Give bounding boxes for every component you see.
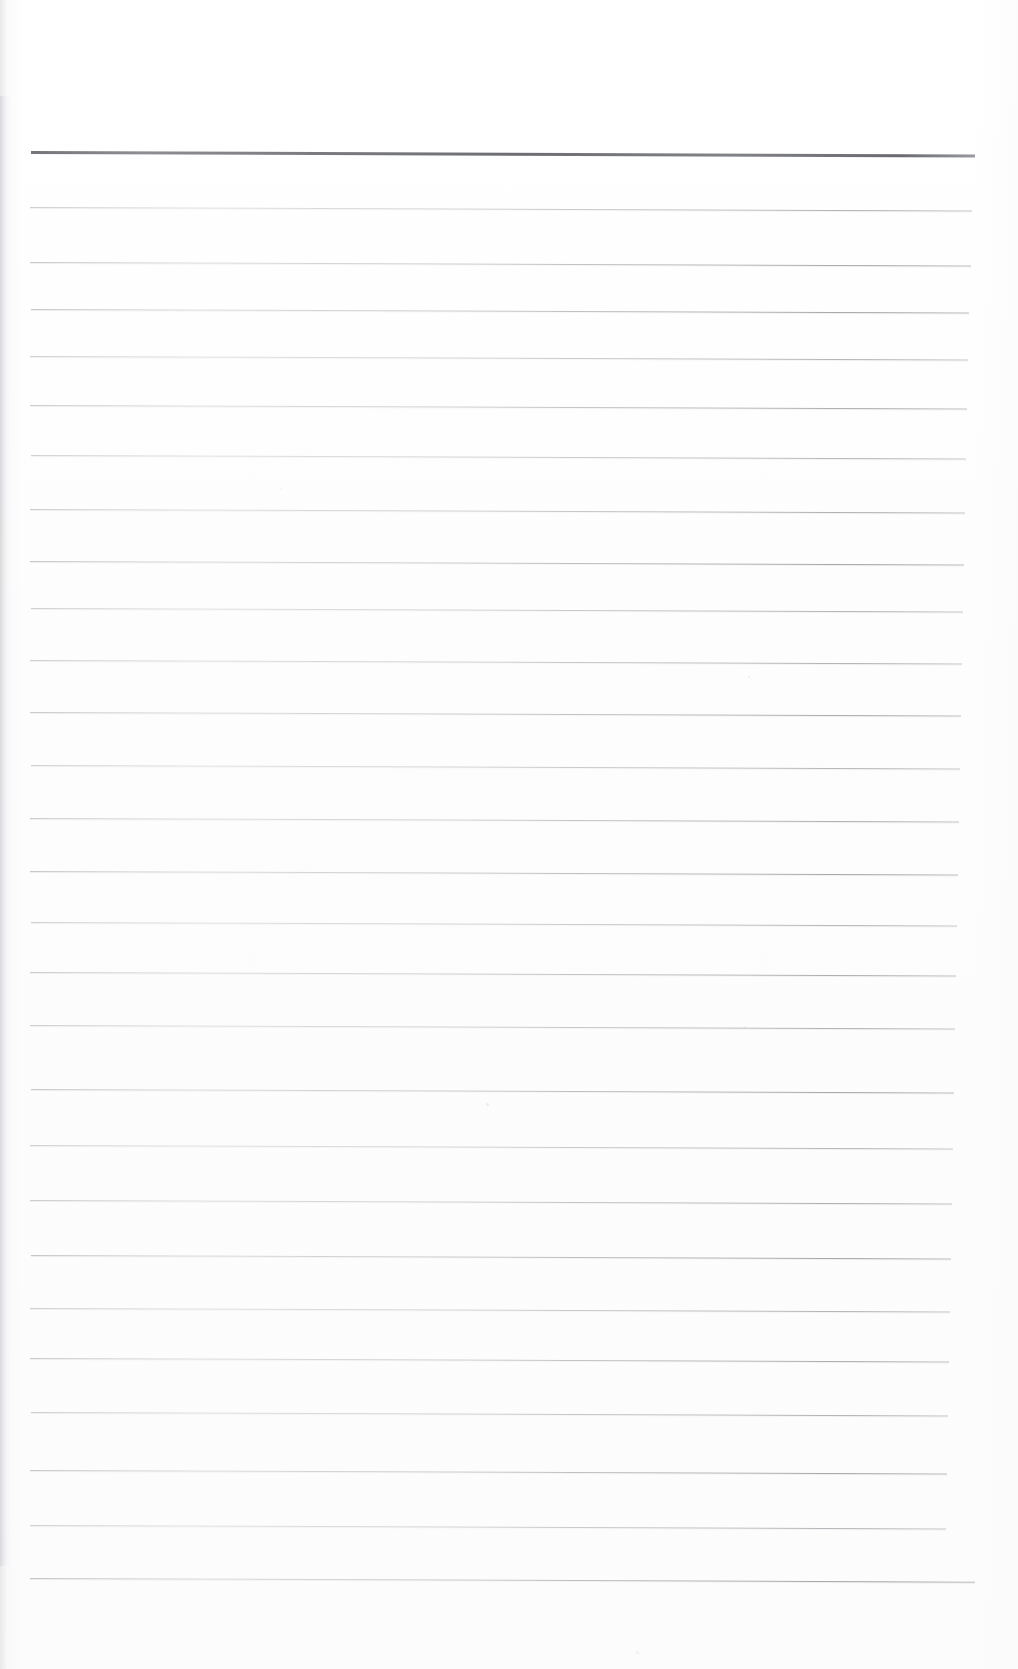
ruled-line-ink <box>31 922 957 927</box>
ruled-line <box>30 355 968 362</box>
ruled-line <box>30 261 971 268</box>
ruled-line-ink <box>30 1200 952 1205</box>
ruled-line-ink <box>30 1358 949 1363</box>
ruled-line-ink <box>30 660 962 665</box>
ruled-line-ink <box>30 356 968 361</box>
ruled-line-ink <box>31 608 963 613</box>
ruled-line <box>30 1024 955 1031</box>
ruled-line <box>30 817 959 824</box>
ruled-line-ink <box>30 1145 953 1150</box>
ruled-line <box>30 1199 952 1206</box>
ruled-line <box>31 1254 951 1261</box>
scanned-page <box>0 0 1018 1669</box>
ruled-line <box>30 508 965 515</box>
ruled-line <box>30 206 972 213</box>
ruled-line-ink <box>30 405 967 410</box>
ruled-line <box>31 921 957 928</box>
ruled-line <box>30 404 967 411</box>
ruled-line-ink <box>31 1255 951 1260</box>
ruled-line <box>31 454 966 461</box>
ruled-line <box>30 560 964 567</box>
ruled-line-ink <box>30 871 958 876</box>
ruled-line-ink <box>30 207 972 212</box>
ruled-line <box>30 1144 953 1151</box>
ruled-line-ink <box>30 561 964 566</box>
ruled-line <box>31 764 960 771</box>
ruled-line-ink <box>31 1089 954 1094</box>
ruled-line <box>30 1469 947 1476</box>
ruled-line-ink <box>30 1578 975 1583</box>
ruled-line <box>30 659 962 666</box>
ruled-line <box>30 711 961 718</box>
ruled-line <box>31 1411 948 1418</box>
ruled-line <box>31 1088 954 1095</box>
ruled-lines-group <box>0 0 1018 1669</box>
ruled-line-ink <box>31 151 975 158</box>
ruled-line-ink <box>31 765 960 770</box>
ruled-line-ink <box>30 509 965 514</box>
ruled-line-ink <box>30 972 956 977</box>
ruled-line-ink <box>30 1470 947 1475</box>
ruled-line-ink <box>30 818 959 823</box>
ruled-line <box>30 1357 949 1364</box>
ruled-line <box>31 607 963 614</box>
ruled-line-ink <box>30 1025 955 1030</box>
ruled-line-ink <box>30 1525 946 1530</box>
ruled-line <box>31 308 969 315</box>
ruled-line <box>30 1577 975 1584</box>
ruled-line-ink <box>30 712 961 717</box>
ruled-line <box>30 1524 946 1531</box>
ruled-line-ink <box>31 1412 948 1417</box>
ruled-line <box>30 1307 950 1314</box>
ruled-line-ink <box>31 309 969 314</box>
ruled-line-ink <box>30 1308 950 1313</box>
ruled-line <box>30 971 956 978</box>
ruled-line <box>30 870 958 877</box>
ruled-line-heavy <box>31 151 975 158</box>
ruled-line-ink <box>30 262 971 267</box>
ruled-line-ink <box>31 455 966 460</box>
